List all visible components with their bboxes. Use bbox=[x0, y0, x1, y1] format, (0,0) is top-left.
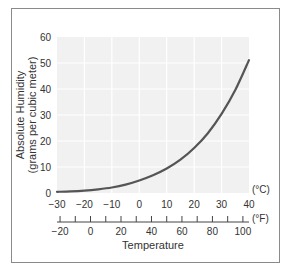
svg-text:30: 30 bbox=[40, 110, 52, 121]
svg-text:30: 30 bbox=[216, 199, 228, 210]
svg-text:0: 0 bbox=[88, 226, 94, 237]
svg-text:−20: −20 bbox=[76, 199, 93, 210]
svg-text:0: 0 bbox=[45, 188, 51, 199]
svg-text:10: 10 bbox=[40, 162, 52, 173]
svg-text:40: 40 bbox=[40, 84, 52, 95]
y-axis-title: Absolute Humidity (grams per cubic meter… bbox=[14, 57, 38, 174]
svg-text:60: 60 bbox=[176, 226, 188, 237]
y-axis-title-line1: Absolute Humidity bbox=[14, 70, 26, 159]
svg-text:60: 60 bbox=[40, 32, 52, 43]
svg-text:40: 40 bbox=[243, 199, 255, 210]
svg-text:80: 80 bbox=[207, 226, 219, 237]
svg-text:10: 10 bbox=[161, 199, 173, 210]
svg-text:20: 20 bbox=[115, 226, 127, 237]
svg-text:−20: −20 bbox=[52, 226, 69, 237]
y-axis-title-line2: (grams per cubic meter) bbox=[26, 57, 38, 174]
x-axis-title: Temperature bbox=[122, 239, 184, 251]
celsius-unit-label: (°C) bbox=[252, 184, 270, 195]
svg-text:20: 20 bbox=[189, 199, 201, 210]
humidity-chart: 0102030405060 −30−20−10010203040 −200204… bbox=[0, 0, 290, 278]
svg-text:−10: −10 bbox=[103, 199, 120, 210]
y-axis-ticks: 0102030405060 bbox=[40, 32, 52, 199]
svg-text:40: 40 bbox=[146, 226, 158, 237]
fahrenheit-unit-label: (°F) bbox=[252, 213, 269, 224]
x-axis-fahrenheit: −20020406080100 bbox=[52, 216, 252, 237]
svg-text:20: 20 bbox=[40, 136, 52, 147]
svg-text:0: 0 bbox=[137, 199, 143, 210]
svg-text:50: 50 bbox=[40, 58, 52, 69]
x-axis-celsius-ticks: −30−20−10010203040 bbox=[49, 199, 255, 210]
svg-text:100: 100 bbox=[235, 226, 252, 237]
svg-text:−30: −30 bbox=[49, 199, 66, 210]
